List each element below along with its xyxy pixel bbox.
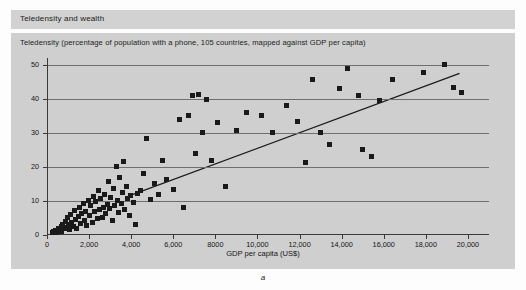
data-point xyxy=(303,160,308,165)
data-point xyxy=(345,66,350,71)
data-point xyxy=(144,136,149,141)
figure-root: Teledensity and wealth Teledensity (perc… xyxy=(0,0,526,290)
x-axis-tick-label: 2,000 xyxy=(66,241,112,249)
data-point xyxy=(318,130,323,135)
data-point xyxy=(124,184,129,189)
data-point xyxy=(270,130,275,135)
data-point xyxy=(110,218,115,223)
data-point xyxy=(120,190,125,195)
x-axis-tick-label: 10,000 xyxy=(234,241,280,249)
data-point xyxy=(111,186,116,191)
data-point xyxy=(259,113,264,118)
plot-area: 0102030405002,0004,0006,000800010,00012,… xyxy=(47,58,489,235)
data-point xyxy=(295,119,300,124)
gridline-horizontal xyxy=(47,99,489,100)
x-axis-tick-label: 14,000 xyxy=(319,241,365,249)
data-point xyxy=(74,226,79,231)
data-point xyxy=(200,130,205,135)
x-axis-tick xyxy=(468,235,469,239)
y-axis-tick-label: 0 xyxy=(13,231,39,239)
data-point xyxy=(98,196,103,201)
data-point xyxy=(122,207,127,212)
y-axis-line xyxy=(47,58,48,235)
data-point xyxy=(223,184,228,189)
chart-title: Teledensity (percentage of population wi… xyxy=(20,38,366,47)
x-axis-tick-label: 4,000 xyxy=(108,241,154,249)
data-point xyxy=(209,158,214,163)
x-axis-tick xyxy=(47,235,48,239)
x-axis-tick xyxy=(257,235,258,239)
data-point xyxy=(327,142,332,147)
data-point xyxy=(103,211,108,216)
data-point xyxy=(164,177,169,182)
y-axis-tick-label: 40 xyxy=(13,95,39,103)
chart-panel: Teledensity (percentage of population wi… xyxy=(11,33,515,269)
x-axis-tick-label: 18,000 xyxy=(403,241,449,249)
data-point xyxy=(112,203,117,208)
x-axis-tick xyxy=(173,235,174,239)
data-point xyxy=(106,179,111,184)
x-axis-tick xyxy=(215,235,216,239)
data-point xyxy=(117,175,122,180)
data-point xyxy=(356,93,361,98)
y-axis-tick-label: 10 xyxy=(13,197,39,205)
x-axis-tick xyxy=(89,235,90,239)
data-point xyxy=(186,113,191,118)
data-point xyxy=(196,92,201,97)
x-axis-tick-label: 6,000 xyxy=(150,241,196,249)
data-point xyxy=(244,110,249,115)
x-axis-tick-label: 12,000 xyxy=(277,241,323,249)
data-point xyxy=(310,77,315,82)
trend-line xyxy=(47,58,489,235)
y-axis-tick-label: 30 xyxy=(13,129,39,137)
x-axis-tick-label: 16,000 xyxy=(361,241,407,249)
y-axis-tick-label: 50 xyxy=(13,61,39,69)
data-point xyxy=(442,62,447,67)
data-point xyxy=(141,171,146,176)
gridline-horizontal xyxy=(47,65,489,66)
data-point xyxy=(156,192,161,197)
data-point xyxy=(160,158,165,163)
data-point xyxy=(451,85,456,90)
data-point xyxy=(215,120,220,125)
gridline-horizontal xyxy=(47,133,489,134)
data-point xyxy=(193,151,198,156)
data-point xyxy=(96,188,101,193)
data-point xyxy=(102,192,107,197)
x-axis-tick xyxy=(300,235,301,239)
x-axis-tick xyxy=(384,235,385,239)
data-point xyxy=(337,86,342,91)
data-point xyxy=(119,201,124,206)
data-point xyxy=(171,187,176,192)
data-point xyxy=(390,77,395,82)
data-point xyxy=(181,205,186,210)
data-point xyxy=(116,210,121,215)
data-point xyxy=(131,200,136,205)
x-axis-title: GDP per capita (US$) xyxy=(11,249,515,258)
data-point xyxy=(108,195,113,200)
data-point xyxy=(234,128,239,133)
page-title: Teledensity and wealth xyxy=(20,14,104,23)
figure-caption: a xyxy=(0,273,526,282)
x-axis-tick-label: 0 xyxy=(24,241,70,249)
data-point xyxy=(152,181,157,186)
x-axis-tick-label: 8000 xyxy=(192,241,238,249)
data-point xyxy=(284,103,289,108)
x-axis-tick xyxy=(426,235,427,239)
data-point xyxy=(360,147,365,152)
data-point xyxy=(127,213,132,218)
data-point xyxy=(121,159,126,164)
data-point xyxy=(177,117,182,122)
data-point xyxy=(128,193,133,198)
x-axis-tick xyxy=(131,235,132,239)
data-point xyxy=(138,188,143,193)
header-bar: Teledensity and wealth xyxy=(11,10,515,29)
data-point xyxy=(114,164,119,169)
x-axis-line xyxy=(47,234,489,235)
x-axis-tick xyxy=(342,235,343,239)
x-axis-tick-label: 20,000 xyxy=(445,241,491,249)
data-point xyxy=(148,197,153,202)
data-point xyxy=(459,90,464,95)
data-point xyxy=(369,154,374,159)
data-point xyxy=(133,222,138,227)
